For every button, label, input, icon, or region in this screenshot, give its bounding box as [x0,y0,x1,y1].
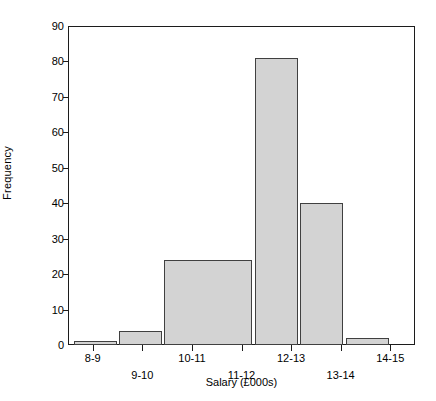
bars-layer [68,26,415,345]
x-axis-tick-label: 12-13 [277,353,305,364]
y-axis-tick-label: 50 [38,162,64,173]
y-axis-title-text: Frequency [1,146,13,200]
histogram-bar [255,58,298,345]
x-axis-title: Salary (£000s) [68,376,415,388]
y-axis-tick-label: 20 [38,269,64,280]
histogram-bar [346,338,389,345]
y-axis-tick-label: 10 [38,304,64,315]
x-axis-tick-label: 14-15 [376,353,404,364]
y-axis-tick-label: 90 [38,21,64,32]
histogram-chart: Frequency 0102030405060708090 8-99-1010-… [0,0,436,401]
y-axis-tick-label: 60 [38,127,64,138]
y-axis-tick-labels: 0102030405060708090 [34,0,64,401]
y-axis-title: Frequency [0,0,14,345]
x-axis-tick-label: 8-9 [85,353,101,364]
y-axis-tick-label: 30 [38,233,64,244]
histogram-bar [164,260,252,345]
histogram-bar [300,203,343,345]
y-axis-tick-label: 40 [38,198,64,209]
y-axis-tick-label: 80 [38,56,64,67]
histogram-bar [119,331,162,345]
x-axis-tick-label: 10-11 [178,353,205,364]
y-axis-tick-label: 70 [38,91,64,102]
